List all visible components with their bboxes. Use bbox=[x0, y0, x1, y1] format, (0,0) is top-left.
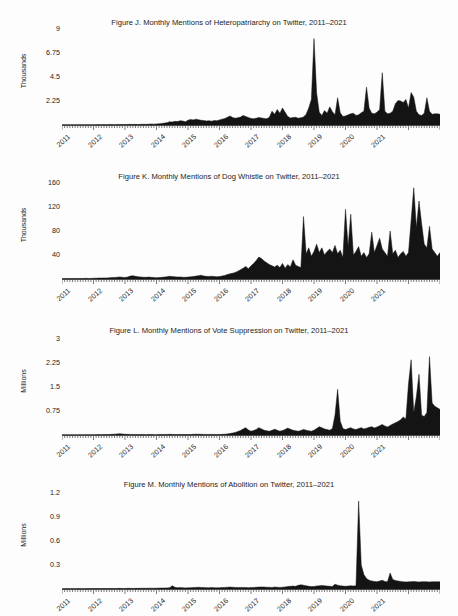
y-tick-label: 0.75 bbox=[20, 407, 60, 415]
x-tick-label: 2019 bbox=[285, 596, 324, 616]
figure-title: Figure J. Monthly Mentions of Heteropatr… bbox=[0, 18, 458, 27]
x-axis-minor-ticks bbox=[62, 436, 440, 441]
x-tick-label: 2021 bbox=[348, 596, 387, 616]
x-tick-label: 2016 bbox=[191, 596, 230, 616]
figure-panel-m: Figure M. Monthly Mentions of Abolition … bbox=[0, 462, 458, 616]
x-axis-minor-ticks bbox=[62, 590, 440, 595]
y-axis-ticks: 1.20.90.60.3 bbox=[16, 462, 60, 616]
y-axis-ticks: 96.754.52.25 bbox=[16, 0, 60, 154]
y-tick-label: 6.75 bbox=[20, 49, 60, 57]
figure-panel-j: Figure J. Monthly Mentions of Heteropatr… bbox=[0, 0, 458, 154]
y-tick-label: 0.6 bbox=[20, 537, 60, 545]
x-tick-label: 2015 bbox=[159, 596, 198, 616]
x-axis-minor-ticks bbox=[62, 280, 440, 285]
y-tick-label: 1.2 bbox=[20, 489, 60, 497]
y-tick-label: 40 bbox=[20, 251, 60, 259]
x-tick-label: 2017 bbox=[222, 596, 261, 616]
y-tick-label: 4.5 bbox=[20, 73, 60, 81]
series-path bbox=[62, 501, 440, 589]
figure-panel-l: Figure L. Monthly Mentions of Vote Suppr… bbox=[0, 308, 458, 462]
series-area-chart bbox=[62, 493, 440, 590]
series-area-chart bbox=[62, 29, 440, 126]
figure-title: Figure L. Monthly Mentions of Vote Suppr… bbox=[0, 326, 458, 335]
series-area-chart bbox=[62, 339, 440, 436]
y-tick-label: 3 bbox=[20, 335, 60, 343]
y-tick-label: 160 bbox=[20, 179, 60, 187]
plot-area bbox=[62, 339, 440, 435]
figure-title: Figure M. Monthly Mentions of Abolition … bbox=[0, 480, 458, 489]
x-axis-minor-ticks bbox=[62, 126, 440, 131]
y-tick-label: 2.25 bbox=[20, 97, 60, 105]
x-tick-label: 2013 bbox=[96, 596, 135, 616]
y-tick-label: 120 bbox=[20, 203, 60, 211]
x-tick-label: 2014 bbox=[128, 596, 167, 616]
series-path bbox=[62, 39, 440, 125]
y-tick-label: 0.9 bbox=[20, 513, 60, 521]
x-axis-ticks: 2011201220132014201520162017201820192020… bbox=[62, 596, 440, 616]
figure-title: Figure K. Monthly Mentions of Dog Whistl… bbox=[0, 172, 458, 181]
series-area-chart bbox=[62, 183, 440, 280]
y-tick-label: 80 bbox=[20, 227, 60, 235]
x-tick-label: 2020 bbox=[317, 596, 356, 616]
y-axis-ticks: 1601208040 bbox=[16, 154, 60, 308]
figures-page: Figure J. Monthly Mentions of Heteropatr… bbox=[0, 0, 458, 616]
figure-panel-k: Figure K. Monthly Mentions of Dog Whistl… bbox=[0, 154, 458, 308]
y-tick-label: 1.5 bbox=[20, 383, 60, 391]
y-axis-ticks: 32.251.50.75 bbox=[16, 308, 60, 462]
y-tick-label: 9 bbox=[20, 25, 60, 33]
x-tick-label: 2012 bbox=[65, 596, 104, 616]
y-tick-label: 2.25 bbox=[20, 359, 60, 367]
series-path bbox=[62, 357, 440, 435]
plot-area bbox=[62, 29, 440, 125]
plot-area bbox=[62, 493, 440, 589]
series-path bbox=[62, 188, 440, 279]
y-tick-label: 0.3 bbox=[20, 561, 60, 569]
plot-area bbox=[62, 183, 440, 279]
x-tick-label: 2018 bbox=[254, 596, 293, 616]
